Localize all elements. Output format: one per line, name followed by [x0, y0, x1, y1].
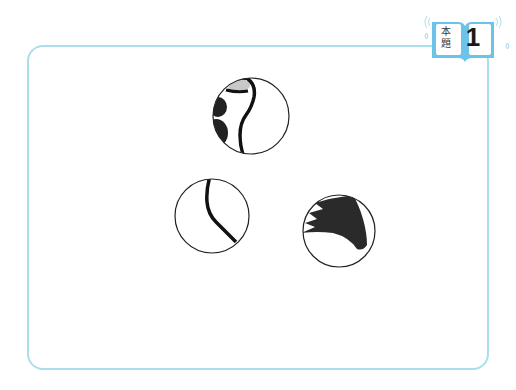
detail-circle-top — [210, 75, 292, 157]
badge-label: 本 題 — [439, 26, 453, 50]
detail-circle-left — [172, 176, 252, 256]
detail-circle-right — [301, 193, 381, 273]
badge-label-line2: 題 — [439, 38, 453, 50]
question-badge: 本 題 1 — [420, 10, 510, 70]
question-number: 1 — [460, 22, 486, 52]
badge-label-line1: 本 — [439, 26, 453, 38]
